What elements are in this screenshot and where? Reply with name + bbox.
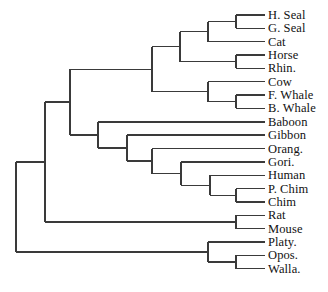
leaf-label-horse: Horse: [268, 49, 298, 62]
phylogenetic-tree-figure: H. SealG. SealCatHorseRhin.CowF. WhaleB.…: [0, 0, 328, 292]
leaf-label-f-whale: F. Whale: [268, 89, 313, 102]
leaf-label-rat: Rat: [268, 209, 286, 222]
leaf-label-orang: Orang.: [268, 142, 303, 155]
leaf-label-walla: Walla.: [268, 262, 301, 275]
leaf-label-gibbon: Gibbon: [268, 129, 306, 142]
leaf-label-layer: H. SealG. SealCatHorseRhin.CowF. WhaleB.…: [0, 0, 328, 292]
leaf-label-baboon: Baboon: [268, 115, 308, 128]
leaf-label-b-whale: B. Whale: [268, 102, 316, 115]
leaf-label-opos: Opos.: [268, 249, 298, 262]
leaf-label-gori: Gori.: [268, 155, 295, 168]
leaf-label-cat: Cat: [268, 35, 286, 48]
leaf-label-mouse: Mouse: [268, 222, 303, 235]
leaf-label-chim: Chim: [268, 195, 296, 208]
leaf-label-rhin: Rhin.: [268, 62, 296, 75]
leaf-label-h-seal: H. Seal: [268, 9, 306, 22]
leaf-label-cow: Cow: [268, 75, 292, 88]
leaf-label-p-chim: P. Chim: [268, 182, 308, 195]
leaf-label-g-seal: G. Seal: [268, 22, 306, 35]
leaf-label-human: Human: [268, 169, 305, 182]
leaf-label-platy: Platy.: [268, 235, 297, 248]
